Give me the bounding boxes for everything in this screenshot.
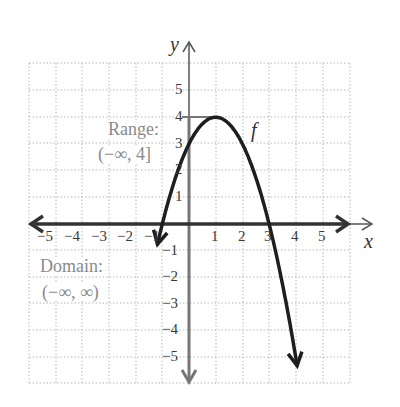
x-axis-label: x xyxy=(364,231,373,251)
y-tick-label: 5 xyxy=(175,82,183,97)
range-title: Range: xyxy=(108,120,159,138)
graph-canvas xyxy=(0,0,400,407)
function-f-curve xyxy=(132,117,304,377)
y-tick-label: −5 xyxy=(162,349,178,364)
x-tick-label: −1 xyxy=(144,229,160,244)
y-tick-label: −3 xyxy=(162,296,178,311)
x-tick-label: 3 xyxy=(264,229,272,244)
y-tick-label: −2 xyxy=(162,269,178,284)
range-value: (−∞, 4] xyxy=(98,145,151,163)
x-tick-label: −2 xyxy=(117,229,133,244)
y-tick-label: 3 xyxy=(175,136,183,151)
x-tick-label: 5 xyxy=(318,229,326,244)
x-tick-label: −3 xyxy=(91,229,107,244)
x-tick-label: 1 xyxy=(211,229,219,244)
y-tick-label: −1 xyxy=(162,243,178,258)
x-tick-label: −5 xyxy=(37,229,53,244)
y-axis-label: y xyxy=(170,34,179,54)
domain-value: (−∞, ∞) xyxy=(42,283,99,301)
y-tick-label: −4 xyxy=(162,322,178,337)
domain-title: Domain: xyxy=(40,257,103,275)
y-tick-label: 4 xyxy=(175,109,183,124)
y-tick-label: 1 xyxy=(175,189,183,204)
x-tick-label: 2 xyxy=(238,229,246,244)
function-label-f: f xyxy=(251,120,257,140)
x-tick-label: −4 xyxy=(64,229,80,244)
y-axis xyxy=(182,42,216,382)
x-tick-label: 4 xyxy=(291,229,299,244)
y-tick-label: 2 xyxy=(175,162,183,177)
